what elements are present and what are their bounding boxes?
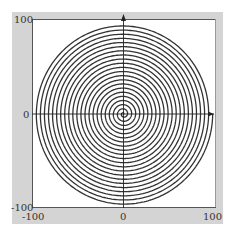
y-tick-middle: 0 (23, 109, 29, 120)
x-tick-left: -100 (22, 211, 44, 222)
x-tick-middle: 0 (120, 211, 126, 222)
y-tick-top: 100 (14, 14, 33, 25)
x-tick-right: 100 (203, 211, 222, 222)
spiral-chart: 100 0 -100 -100 0 100 (0, 0, 238, 235)
